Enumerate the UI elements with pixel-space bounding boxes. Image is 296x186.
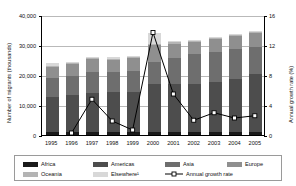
bar-segment [107, 72, 120, 92]
y-tick-label-left: 30,000 [0, 43, 36, 49]
bar-column [249, 31, 262, 135]
bar-segment [66, 95, 79, 133]
bar-segment [249, 132, 262, 135]
bar-segment [127, 132, 140, 135]
bar-column [46, 63, 59, 135]
y-tick-mark-left [39, 16, 42, 17]
bar-segment [86, 59, 99, 72]
y-axis-left-title: Number of migrants (thousands) [6, 43, 12, 123]
y-tick-label-left: 20,000 [0, 73, 36, 79]
legend-swatch [165, 162, 180, 167]
bar-segment [148, 33, 161, 44]
legend-swatch [93, 172, 108, 177]
legend-label: Asia [183, 161, 194, 167]
legend-item[interactable]: Asia [165, 161, 194, 167]
bar-segment [168, 58, 181, 84]
bar-segment [46, 67, 59, 78]
y-tick-mark-left [39, 106, 42, 107]
legend-item[interactable]: Europe [227, 161, 263, 167]
legend-label: Americas [111, 161, 134, 167]
bar-column [148, 33, 161, 135]
bar-segment [86, 72, 99, 93]
bar-segment [188, 84, 201, 132]
bar-segment [66, 132, 79, 135]
legend-swatch [23, 162, 38, 167]
y-tick-mark-right [264, 16, 267, 17]
bar-segment [209, 39, 222, 52]
bar-segment [249, 33, 262, 47]
y-tick-label-left: 0 [0, 133, 36, 139]
legend-line-marker-icon [165, 171, 183, 177]
y-tick-mark-left [39, 76, 42, 77]
bar-segment [107, 60, 120, 72]
x-tick-label: 2005 [241, 140, 269, 146]
bar-column [107, 57, 120, 135]
legend-item[interactable]: Annual growth rate [165, 171, 233, 177]
y-tick-mark-left [39, 46, 42, 47]
legend-swatch [23, 172, 38, 177]
bar-column [168, 41, 181, 135]
bar-segment [148, 62, 161, 85]
bar-segment [66, 76, 79, 95]
bar-segment [107, 92, 120, 132]
legend-label: Oceania [41, 171, 62, 177]
bar-segment [46, 132, 59, 135]
bar-column [209, 37, 222, 135]
legend-item[interactable]: Elsewhere¹ [93, 171, 139, 177]
bar-segment [209, 132, 222, 135]
y-tick-mark-left [39, 136, 42, 137]
legend-label: Europe [245, 161, 263, 167]
y-tick-mark-right [264, 106, 267, 107]
bar-segment [148, 132, 161, 135]
bar-segment [168, 132, 181, 135]
chart-root: Number of migrants (thousands) Annual gr… [0, 0, 296, 186]
bar-segment [188, 54, 201, 84]
bar-segment [229, 132, 242, 135]
bar-segment [148, 45, 161, 62]
legend-item[interactable]: Americas [93, 161, 134, 167]
y-tick-label-right: 8 [269, 73, 291, 79]
bar-segment [229, 36, 242, 50]
bar-segment [148, 84, 161, 132]
bar-segment [127, 58, 140, 72]
bar-segment [46, 78, 59, 97]
bar-segment [209, 82, 222, 132]
y-tick-label-left: 10,000 [0, 103, 36, 109]
y-tick-label-right: 16 [269, 13, 291, 19]
bar-segment [107, 132, 120, 135]
bar-segment [249, 47, 262, 74]
bar-column [229, 34, 242, 135]
bar-segment [86, 132, 99, 135]
y-tick-label-left: 40,000 [0, 13, 36, 19]
bar-column [127, 56, 140, 135]
y-tick-mark-right [264, 46, 267, 47]
bar-segment [188, 132, 201, 135]
plot-area [41, 16, 265, 136]
bar-segment [168, 44, 181, 58]
y-tick-label-right: 0 [269, 133, 291, 139]
y-tick-label-right: 12 [269, 43, 291, 49]
legend-label: Annual growth rate [186, 171, 233, 177]
bar-segment [229, 79, 242, 132]
chart-legend: AfricaAmericasAsiaEuropeOceaniaElsewhere… [14, 155, 282, 181]
bar-segment [66, 64, 79, 76]
bar-segment [249, 74, 262, 132]
bar-segment [127, 71, 140, 91]
bar-segment [188, 42, 201, 55]
legend-swatch [93, 162, 108, 167]
legend-label: Elsewhere¹ [111, 171, 139, 177]
bar-segment [127, 92, 140, 133]
bar-segment [229, 49, 242, 78]
bar-segment [209, 52, 222, 82]
bar-column [86, 57, 99, 135]
legend-label: Africa [41, 161, 55, 167]
bar-segment [46, 97, 59, 132]
legend-item[interactable]: Africa [23, 161, 55, 167]
bar-segment [86, 93, 99, 132]
bar-segment [168, 84, 181, 132]
bar-column [66, 62, 79, 135]
y-tick-mark-right [264, 136, 267, 137]
gridline [42, 16, 264, 17]
legend-item[interactable]: Oceania [23, 171, 62, 177]
legend-swatch [227, 162, 242, 167]
